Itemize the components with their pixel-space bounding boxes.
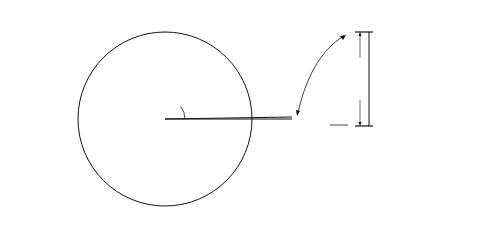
angle-diagram (0, 0, 481, 235)
minute-scale (355, 32, 373, 126)
angle-arc (181, 107, 185, 119)
blowup-arrow (296, 35, 346, 116)
degree-circle (78, 32, 348, 206)
